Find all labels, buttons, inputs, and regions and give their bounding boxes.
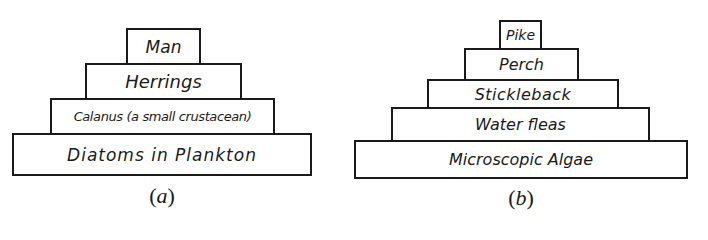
level-label: Perch [499, 55, 544, 74]
level-label: Calanus (a small crustacean) [74, 109, 252, 124]
pyramid-b-level-water-fleas: Water fleas [391, 107, 650, 142]
pyramid-a-level-calanus: Calanus (a small crustacean) [50, 98, 275, 135]
level-label: Stickleback [475, 85, 572, 104]
pyramid-b-caption: (b) [491, 185, 551, 211]
pyramid-b-level-microscopic-algae: Microscopic Algae [354, 140, 688, 179]
level-label: Herrings [125, 71, 202, 92]
level-label: Water fleas [475, 115, 566, 134]
pyramid-b-level-pike: Pike [499, 20, 542, 50]
pyramid-a-level-man: Man [126, 28, 201, 65]
level-label: Man [146, 37, 182, 57]
level-label: Pike [506, 27, 535, 43]
pyramid-a-level-diatoms: Diatoms in Plankton [12, 133, 312, 176]
pyramid-a-caption: (a) [132, 183, 192, 209]
pyramid-b-level-stickleback: Stickleback [427, 79, 619, 109]
pyramid-b-level-perch: Perch [464, 48, 579, 81]
level-label: Microscopic Algae [449, 150, 593, 169]
pyramid-a-level-herrings: Herrings [85, 63, 242, 100]
level-label: Diatoms in Plankton [67, 145, 257, 165]
